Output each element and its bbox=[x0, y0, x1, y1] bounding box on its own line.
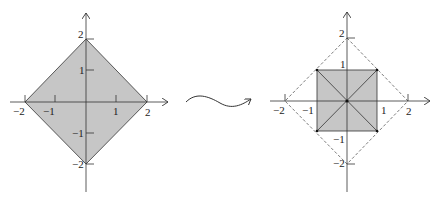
x-tick-label: 2 bbox=[145, 106, 151, 118]
y-tick-label: −2 bbox=[72, 158, 84, 170]
y-tick-label: 1 bbox=[340, 58, 346, 70]
right-plot: −2 −1 1 2 2 1 −1 −2 bbox=[270, 12, 430, 192]
y-tick-label: −1 bbox=[72, 127, 84, 139]
x-tick-label: −2 bbox=[273, 104, 285, 116]
y-tick-label: −2 bbox=[333, 157, 345, 169]
wavy-arrow-icon bbox=[186, 96, 251, 106]
y-tick-label: 2 bbox=[78, 28, 84, 40]
x-tick-label: 2 bbox=[406, 105, 412, 117]
y-tick-label: 2 bbox=[339, 27, 345, 39]
x-tick-label: −1 bbox=[43, 105, 55, 117]
y-tick-label: 1 bbox=[79, 64, 85, 76]
y-tick-label: −1 bbox=[333, 133, 345, 145]
x-tick-label: −2 bbox=[13, 105, 25, 117]
x-tick-label: 1 bbox=[381, 104, 387, 116]
left-plot: −2 −1 1 2 2 1 −1 −2 bbox=[10, 13, 168, 192]
figure-canvas: −2 −1 1 2 2 1 −1 −2 −2 −1 1 2 2 1 −1 bbox=[0, 0, 441, 200]
x-tick-label: 1 bbox=[113, 105, 119, 117]
x-tick-label: −1 bbox=[302, 104, 314, 116]
